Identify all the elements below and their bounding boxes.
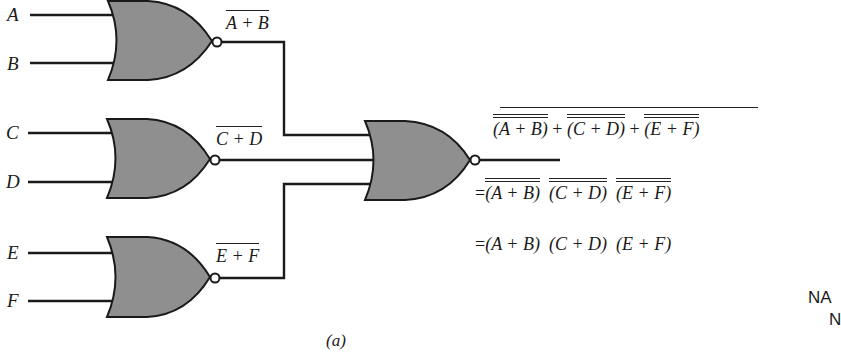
nor-gate-final	[365, 121, 470, 200]
equation-line-1: (A + B) + (C + D) + (E + F)	[493, 120, 699, 138]
bubble-3	[211, 274, 220, 283]
term-cd: (C + D)	[567, 120, 625, 138]
side-text-line-2: N	[829, 310, 841, 330]
input-label-b: B	[7, 54, 19, 73]
figure-caption: (a)	[326, 331, 346, 351]
nor-gate-1	[108, 1, 212, 80]
nor2-output-label: C + D	[216, 130, 262, 148]
bubble-1	[213, 38, 222, 47]
equation-1-overbar	[500, 107, 758, 108]
equation-line-3: =(A + B) (C + D) (E + F)	[475, 235, 671, 253]
wire-nor1-out	[222, 42, 372, 135]
bubble-final	[471, 156, 480, 165]
term-ab: (A + B)	[493, 120, 548, 138]
input-label-e: E	[7, 243, 19, 262]
input-label-c: C	[6, 123, 19, 142]
nor1-output-label: A + B	[226, 14, 269, 32]
term-ef: (E + F)	[644, 120, 699, 138]
input-label-a: A	[7, 5, 19, 24]
input-label-d: D	[6, 172, 20, 191]
side-text-line-1: NA	[808, 288, 832, 308]
bubble-2	[211, 156, 220, 165]
nor-gate-3	[107, 237, 210, 317]
nor3-output-label: E + F	[216, 247, 259, 265]
nor-gate-2	[107, 119, 210, 198]
input-label-f: F	[7, 291, 19, 310]
equation-line-2: =(A + B) (C + D) (E + F)	[475, 184, 671, 202]
